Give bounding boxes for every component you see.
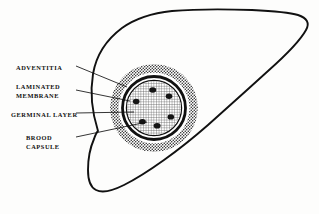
- label-adventitia: ADVENTITIA: [16, 63, 62, 72]
- label-laminated-membrane: LAMINATED MEMBRANE: [16, 82, 60, 100]
- brood-capsule-dot: [168, 114, 175, 119]
- label-brood-capsule-line-1: BROOD: [26, 133, 60, 142]
- label-germinal-layer-line-1: GERMINAL LAYER: [11, 110, 78, 119]
- hydatid-cyst-diagram: [0, 0, 319, 214]
- label-laminated-membrane-line-1: LAMINATED: [16, 82, 60, 91]
- label-laminated-membrane-line-2: MEMBRANE: [16, 91, 60, 100]
- label-germinal-layer: GERMINAL LAYER: [11, 110, 78, 119]
- leader-adventitia: [76, 66, 127, 87]
- brood-capsule-dot: [133, 99, 140, 104]
- label-brood-capsule: BROOD CAPSULE: [26, 133, 60, 151]
- label-brood-capsule-line-2: CAPSULE: [26, 142, 60, 151]
- label-adventitia-line-1: ADVENTITIA: [16, 63, 62, 72]
- brood-capsule-dot: [149, 87, 156, 93]
- brood-capsule-dot: [166, 94, 173, 99]
- brood-capsule-dot: [154, 123, 161, 129]
- figure-canvas: ADVENTITIA LAMINATED MEMBRANE GERMINAL L…: [0, 0, 319, 214]
